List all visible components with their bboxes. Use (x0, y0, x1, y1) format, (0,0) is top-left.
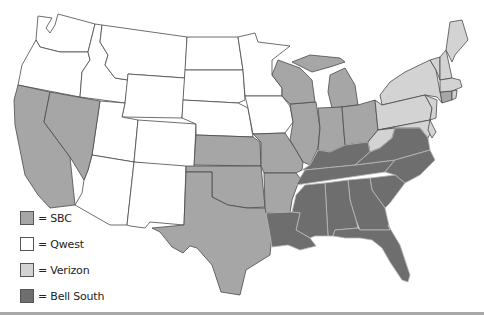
state-ks (194, 135, 261, 166)
state-mt (100, 25, 187, 80)
state-nd (185, 37, 243, 70)
legend-swatch-verizon (20, 263, 34, 277)
legend-item-qwest: = Qwest (20, 231, 104, 257)
legend-swatch-qwest (20, 237, 34, 251)
state-wa (36, 14, 95, 52)
state-ms (292, 183, 328, 238)
legend-label-qwest: = Qwest (38, 238, 84, 251)
state-ia (245, 96, 293, 134)
legend-item-bellsouth: = Bell South (20, 283, 104, 309)
legend-swatch-bellsouth (20, 289, 34, 303)
legend-swatch-sbc (20, 211, 34, 225)
state-ri (452, 90, 457, 100)
state-me (446, 20, 468, 62)
legend-item-sbc: = SBC (20, 205, 104, 231)
state-in (318, 107, 345, 152)
state-ma (440, 78, 462, 92)
legend-label-sbc: = SBC (38, 212, 72, 225)
legend-label-verizon: = Verizon (38, 264, 89, 277)
state-fl (333, 225, 410, 282)
state-mi (328, 68, 358, 108)
state-wy (122, 74, 185, 118)
map-legend: = SBC = Qwest = Verizon = Bell South (20, 205, 104, 309)
state-sd (183, 70, 245, 103)
state-nm (127, 162, 186, 228)
legend-label-bellsouth: = Bell South (38, 290, 104, 303)
legend-item-verizon: = Verizon (20, 257, 104, 283)
